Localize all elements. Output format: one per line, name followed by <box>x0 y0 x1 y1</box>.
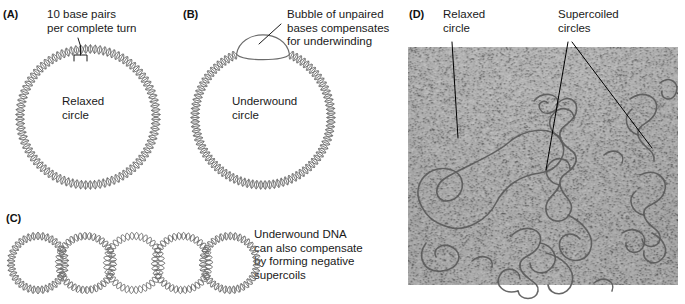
panel-letter-b: (B) <box>183 8 198 20</box>
panel-letter-a: (A) <box>3 8 18 20</box>
panel-d-leader-lines <box>400 20 685 200</box>
panel-letter-d: (D) <box>409 8 424 20</box>
panel-c-supercoil-chain <box>8 222 258 304</box>
panel-a-coiled-circle <box>0 30 200 230</box>
panel-c-annotation: Underwound DNA can also compensate by fo… <box>254 228 363 282</box>
panel-b-coiled-circle-with-bubble <box>185 30 395 230</box>
